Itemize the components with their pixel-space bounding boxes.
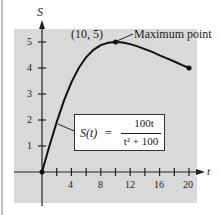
formula-numerator: 100t xyxy=(127,118,161,129)
origin-point xyxy=(40,170,45,175)
y-tick-label-2: 2 xyxy=(27,115,32,125)
y-tick-label-5: 5 xyxy=(27,37,32,47)
formula-fraction-bar xyxy=(121,133,161,134)
y-axis-arrow-icon xyxy=(39,20,45,29)
x-axis-label: t xyxy=(207,166,210,177)
y-tick-label-1: 1 xyxy=(27,141,32,151)
endpoint-t20 xyxy=(187,66,192,71)
x-tick-label-8: 8 xyxy=(98,180,103,190)
x-axis-arrow-icon xyxy=(196,169,205,175)
x-tick-label-16: 16 xyxy=(154,180,164,190)
y-tick-label-3: 3 xyxy=(27,89,32,99)
y-axis-label: S xyxy=(37,6,43,18)
max-point-label: Maximum point xyxy=(134,28,212,40)
formula-equals: = xyxy=(105,127,112,139)
formula-lhs: S(t) xyxy=(80,127,97,139)
max-coordinate-label: (10, 5) xyxy=(71,28,103,40)
x-tick-label-4: 4 xyxy=(68,180,73,190)
y-tick-label-4: 4 xyxy=(27,63,32,73)
page-edge xyxy=(1,0,3,215)
x-tick-label-20: 20 xyxy=(183,180,193,190)
maximum-point xyxy=(113,40,118,45)
formula-box: S(t) = 100t t² + 100 xyxy=(74,114,165,151)
formula-denominator: t² + 100 xyxy=(121,136,161,147)
x-tick-label-12: 12 xyxy=(125,180,135,190)
